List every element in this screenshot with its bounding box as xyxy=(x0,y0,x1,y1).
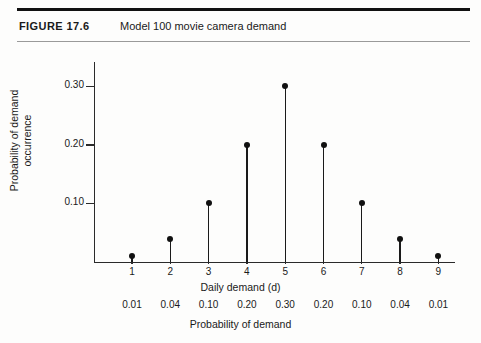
y-axis-tick xyxy=(86,144,95,145)
x-axis-title: Daily demand (d) xyxy=(0,281,481,293)
y-axis-tick xyxy=(86,86,95,87)
stem-line xyxy=(361,203,362,262)
y-axis-tick-label: 0.10 xyxy=(65,196,84,207)
stem-line xyxy=(170,239,171,262)
y-axis-tick xyxy=(86,203,95,204)
probability-value-label: 0.01 xyxy=(416,299,460,310)
x-axis-tick-label: 8 xyxy=(385,266,415,277)
figure-page: FIGURE 17.6 Model 100 movie camera deman… xyxy=(0,0,481,343)
probability-axis-title: Probability of demand xyxy=(0,318,481,330)
y-axis-tick-label: 0.30 xyxy=(65,79,84,90)
x-axis-tick-label: 3 xyxy=(194,266,224,277)
stem-line xyxy=(246,145,247,262)
stem-plot: 0.100.200.30 10.0120.0430.1040.2050.3060… xyxy=(0,0,481,343)
x-axis-tick-label: 9 xyxy=(423,266,453,277)
data-point-marker xyxy=(244,142,250,148)
x-axis-tick-label: 2 xyxy=(155,266,185,277)
stem-line xyxy=(399,239,400,262)
data-point-marker xyxy=(129,253,135,259)
data-point-marker xyxy=(206,200,212,206)
stem-line xyxy=(323,145,324,262)
data-point-marker xyxy=(359,200,365,206)
x-axis-tick-label: 7 xyxy=(347,266,377,277)
data-point-marker xyxy=(397,236,403,242)
stem-line xyxy=(285,86,286,262)
x-axis-tick-label: 4 xyxy=(232,266,262,277)
data-point-marker xyxy=(282,83,288,89)
stem-line xyxy=(208,203,209,262)
x-axis-line xyxy=(94,262,455,263)
data-point-marker xyxy=(321,142,327,148)
y-axis-tick-label: 0.20 xyxy=(65,138,84,149)
x-axis-tick-label: 5 xyxy=(270,266,300,277)
data-point-marker xyxy=(435,253,441,259)
y-axis-title: Probability of demand occurrence xyxy=(8,76,33,206)
y-axis-line xyxy=(94,62,95,263)
x-axis-tick-label: 1 xyxy=(117,266,147,277)
data-point-marker xyxy=(167,236,173,242)
x-axis-tick-label: 6 xyxy=(309,266,339,277)
